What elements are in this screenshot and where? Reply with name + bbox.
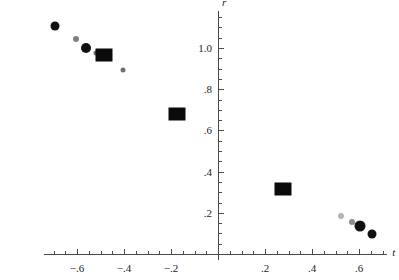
x-axis-minor-tick	[324, 251, 325, 254]
y-axis-minor-tick	[219, 100, 222, 101]
data-point	[168, 107, 185, 120]
x-axis-minor-tick	[336, 251, 337, 254]
x-axis-major-tick	[171, 249, 172, 254]
y-axis-major-tick	[219, 172, 224, 173]
x-axis-tick-label: −.6	[70, 262, 84, 274]
data-point	[367, 230, 376, 239]
x-axis-major-tick	[359, 249, 360, 254]
data-point	[274, 183, 291, 196]
x-axis-major-tick	[265, 249, 266, 254]
scatter-plot-figure: −.6−.4−.2.2.4.6 .2.4.6.81.0 t r	[0, 0, 399, 280]
data-point	[355, 221, 366, 232]
y-axis-major-tick	[219, 89, 224, 90]
x-axis-line	[44, 254, 387, 255]
y-axis-tick-label: .6	[184, 124, 212, 136]
y-axis-minor-tick	[219, 233, 222, 234]
y-axis-minor-tick	[219, 17, 222, 18]
data-point	[96, 49, 113, 62]
x-axis-minor-tick	[253, 251, 254, 254]
x-axis-minor-tick	[112, 251, 113, 254]
x-axis-minor-tick	[89, 251, 90, 254]
y-axis-minor-tick	[219, 110, 222, 111]
x-axis-tick-label: −.2	[164, 262, 178, 274]
x-axis-minor-tick	[371, 251, 372, 254]
y-axis-tick-label: 1.0	[184, 42, 212, 54]
y-axis-minor-tick	[219, 151, 222, 152]
y-axis-minor-tick	[219, 161, 222, 162]
y-axis-minor-tick	[219, 79, 222, 80]
x-axis-minor-tick	[195, 251, 196, 254]
x-axis-minor-tick	[230, 251, 231, 254]
x-axis-tick-label: .2	[261, 262, 269, 274]
y-axis-tick-label: .8	[184, 83, 212, 95]
x-axis-major-tick	[312, 249, 313, 254]
x-axis-minor-tick	[347, 251, 348, 254]
x-axis-tick-label: −.4	[117, 262, 131, 274]
x-axis-minor-tick	[183, 251, 184, 254]
y-axis-major-tick	[219, 213, 224, 214]
y-axis-minor-tick	[219, 120, 222, 121]
y-axis-minor-tick	[219, 38, 222, 39]
y-axis-minor-tick	[219, 27, 222, 28]
x-axis-minor-tick	[136, 251, 137, 254]
y-axis-major-tick	[219, 130, 224, 131]
y-axis-minor-tick	[219, 192, 222, 193]
x-axis-tick-label: .6	[355, 262, 363, 274]
x-axis-minor-tick	[300, 251, 301, 254]
data-point	[338, 213, 344, 219]
x-axis-minor-tick	[289, 251, 290, 254]
x-axis-minor-tick	[206, 251, 207, 254]
y-axis-minor-tick	[219, 141, 222, 142]
y-axis-title: r	[222, 0, 226, 8]
x-axis-minor-tick	[277, 251, 278, 254]
x-axis-major-tick	[77, 249, 78, 254]
y-axis-tick-label: .2	[184, 207, 212, 219]
data-point	[81, 43, 91, 53]
data-point	[73, 36, 79, 42]
x-axis-minor-tick	[383, 251, 384, 254]
data-point	[120, 67, 125, 72]
x-axis-minor-tick	[159, 251, 160, 254]
x-axis-minor-tick	[148, 251, 149, 254]
y-axis-minor-tick	[219, 203, 222, 204]
x-axis-tick-label: .4	[308, 262, 316, 274]
x-axis-minor-tick	[54, 251, 55, 254]
x-axis-minor-tick	[101, 251, 102, 254]
y-axis-minor-tick	[219, 244, 222, 245]
y-axis-minor-tick	[219, 58, 222, 59]
x-axis-minor-tick	[65, 251, 66, 254]
data-point	[50, 22, 59, 31]
x-axis-title: t	[392, 246, 395, 258]
y-axis-minor-tick	[219, 182, 222, 183]
y-axis-minor-tick	[219, 223, 222, 224]
y-axis-major-tick	[219, 48, 224, 49]
x-axis-major-tick	[124, 249, 125, 254]
y-axis-minor-tick	[219, 69, 222, 70]
y-axis-tick-label: .4	[184, 166, 212, 178]
x-axis-minor-tick	[242, 251, 243, 254]
